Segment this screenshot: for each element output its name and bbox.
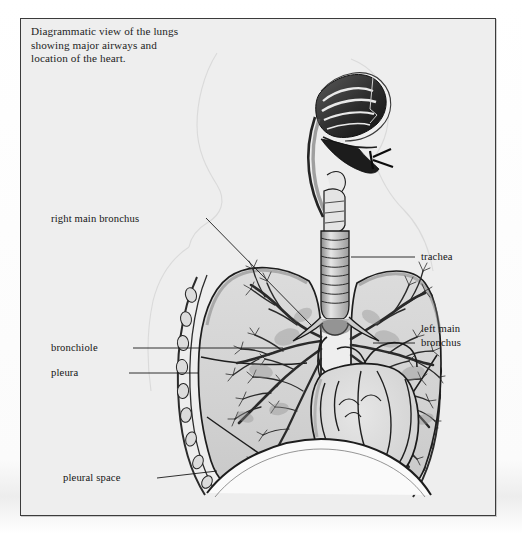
figure-page: Diagrammatic view of the lungs showing m…: [0, 0, 522, 534]
label-bronchiole: bronchiole: [51, 342, 98, 353]
anatomy-illustration: right main bronchus bronchiole pleura pl…: [21, 19, 495, 515]
figure-canvas: Diagrammatic view of the lungs showing m…: [21, 19, 495, 515]
head-airway-group: [308, 73, 393, 233]
label-trachea: trachea: [421, 251, 453, 262]
label-left-main-bronchus-line1: left main: [421, 323, 461, 334]
carina-shadow: [319, 319, 351, 335]
trachea: [321, 231, 349, 319]
figure-frame: Diagrammatic view of the lungs showing m…: [20, 18, 496, 516]
label-pleural-space: pleural space: [63, 472, 121, 483]
label-left-main-bronchus-line2: bronchus: [421, 337, 461, 348]
mouth-opening: [370, 149, 393, 169]
label-right-main-bronchus: right main bronchus: [51, 213, 139, 224]
label-pleura: pleura: [51, 367, 79, 378]
